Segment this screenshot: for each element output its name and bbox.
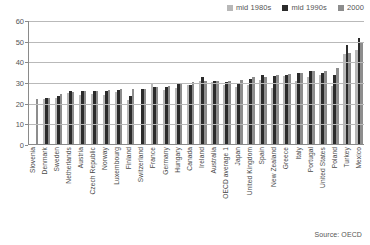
x-label-slot: Portugal bbox=[308, 147, 315, 222]
bar-2 bbox=[204, 81, 207, 144]
bar-2 bbox=[168, 86, 171, 144]
bar-2 bbox=[132, 89, 135, 144]
x-label-slot: Switzerland bbox=[138, 147, 145, 222]
x-axis-label: Norway bbox=[102, 147, 109, 170]
x-axis-label: Hungary bbox=[175, 147, 182, 173]
x-axis-label: Italy bbox=[296, 147, 303, 160]
bar-2 bbox=[84, 91, 87, 144]
bar-2 bbox=[108, 90, 111, 144]
x-axis-label: United Kingdom bbox=[247, 147, 254, 195]
y-tick-mark bbox=[25, 42, 28, 43]
x-axis-label: Spain bbox=[259, 147, 266, 164]
bar-2 bbox=[192, 82, 195, 144]
x-axis-label: Austria bbox=[78, 147, 85, 168]
bar-2 bbox=[240, 80, 243, 144]
x-axis-label: Mexico bbox=[356, 147, 363, 169]
x-label-slot: Greece bbox=[283, 147, 290, 222]
x-label-slot: United States bbox=[320, 147, 327, 222]
x-label-slot: Canada bbox=[187, 147, 194, 222]
gridline bbox=[29, 124, 364, 125]
x-axis-label: Luxembourg bbox=[114, 147, 121, 185]
x-axis-label: Japan bbox=[235, 147, 242, 165]
x-axis-label: Finland bbox=[126, 147, 133, 169]
x-axis-label: France bbox=[150, 147, 157, 168]
bar-2 bbox=[216, 81, 219, 144]
bar-2 bbox=[36, 99, 39, 144]
y-tick-mark bbox=[25, 62, 28, 63]
bar-2 bbox=[324, 71, 327, 144]
x-label-slot: Turkey bbox=[344, 147, 351, 222]
x-axis-label: Germany bbox=[163, 147, 170, 175]
x-label-slot: Ireland bbox=[199, 147, 206, 222]
x-axis-label: Portugal bbox=[308, 147, 315, 172]
y-tick-label: 40 bbox=[0, 58, 24, 67]
x-label-slot: Netherlands bbox=[66, 147, 73, 222]
x-label-slot: Slovenia bbox=[30, 147, 37, 222]
x-axis-label: Denmark bbox=[42, 147, 49, 174]
bar-2 bbox=[96, 91, 99, 144]
legend-label: 2000 bbox=[347, 3, 364, 12]
x-axis-label: Greece bbox=[283, 147, 290, 169]
bar-2 bbox=[336, 68, 339, 144]
x-axis-label: Netherlands bbox=[66, 147, 73, 184]
y-tick-label: 10 bbox=[0, 120, 24, 129]
legend-label: mid 1980s bbox=[236, 3, 272, 12]
x-label-slot: Italy bbox=[296, 147, 303, 222]
y-tick-label: 50 bbox=[0, 37, 24, 46]
legend-item-1: mid 1990s bbox=[282, 3, 327, 12]
x-label-slot: Japan bbox=[235, 147, 242, 222]
x-axis-label: Ireland bbox=[199, 147, 206, 168]
x-axis-label: OECD average 1 bbox=[223, 147, 230, 199]
gridline bbox=[29, 42, 364, 43]
legend-swatch-icon bbox=[227, 5, 233, 11]
x-label-slot: Denmark bbox=[42, 147, 49, 222]
bar-2 bbox=[264, 77, 267, 144]
x-label-slot: United Kingdom bbox=[247, 147, 254, 222]
x-label-slot: Czech Republic bbox=[90, 147, 97, 222]
bar-2 bbox=[360, 42, 363, 144]
x-axis-label: Czech Republic bbox=[90, 147, 97, 195]
x-label-slot: Luxembourg bbox=[114, 147, 121, 222]
bar-2 bbox=[288, 74, 291, 144]
x-axis-label: Australia bbox=[211, 147, 218, 174]
x-axis-label: United States bbox=[320, 147, 327, 188]
x-axis-label: Switzerland bbox=[138, 147, 145, 182]
y-tick-mark bbox=[25, 124, 28, 125]
bar-chart: mid 1980smid 1990s2000 SloveniaDenmarkSw… bbox=[0, 0, 370, 245]
gridline bbox=[29, 21, 364, 22]
x-label-slot: Austria bbox=[78, 147, 85, 222]
x-label-slot: Poland bbox=[332, 147, 339, 222]
x-label-slot: Finland bbox=[126, 147, 133, 222]
y-tick-mark bbox=[25, 104, 28, 105]
bar-2 bbox=[180, 83, 183, 144]
x-label-slot: New Zealand bbox=[271, 147, 278, 222]
x-label-slot: Australia bbox=[211, 147, 218, 222]
x-axis-label: Turkey bbox=[344, 147, 351, 168]
y-tick-label: 0 bbox=[0, 141, 24, 150]
gridline bbox=[29, 83, 364, 84]
x-label-slot: Hungary bbox=[175, 147, 182, 222]
x-axis-label: Slovenia bbox=[30, 147, 37, 173]
x-label-slot: France bbox=[150, 147, 157, 222]
legend-label: mid 1990s bbox=[291, 3, 327, 12]
y-tick-mark bbox=[25, 83, 28, 84]
bar-2 bbox=[252, 77, 255, 144]
x-label-slot: Mexico bbox=[356, 147, 363, 222]
plot-area bbox=[28, 21, 364, 145]
bar-2 bbox=[60, 94, 63, 144]
y-tick-label: 30 bbox=[0, 79, 24, 88]
legend-item-2: 2000 bbox=[338, 3, 364, 12]
x-axis-label: Poland bbox=[332, 147, 339, 168]
y-tick-mark bbox=[25, 21, 28, 22]
bar-2 bbox=[276, 75, 279, 144]
bar-2 bbox=[120, 89, 123, 144]
gridline bbox=[29, 62, 364, 63]
chart-legend: mid 1980smid 1990s2000 bbox=[227, 3, 364, 12]
x-axis-label: Canada bbox=[187, 147, 194, 171]
legend-swatch-icon bbox=[338, 5, 344, 11]
x-label-slot: Norway bbox=[102, 147, 109, 222]
x-label-slot: Spain bbox=[259, 147, 266, 222]
legend-swatch-icon bbox=[282, 5, 288, 11]
bar-2 bbox=[72, 92, 75, 144]
bar-2 bbox=[348, 53, 351, 144]
